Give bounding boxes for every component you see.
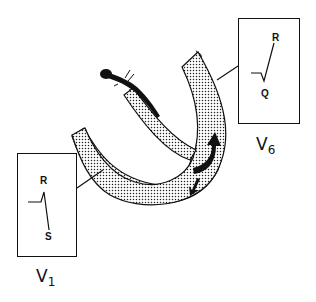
lead-v6-label: V6 <box>256 136 275 156</box>
lead-v6-subscript: 6 <box>268 143 276 157</box>
v6-qrs-waveform <box>239 19 301 125</box>
v6-q-wave-label: Q <box>261 89 269 99</box>
v6-r-wave-label: R <box>272 33 279 43</box>
lead-v1-box: R S <box>17 153 77 257</box>
lead-v1-label: V1 <box>36 268 55 288</box>
lead-v6-box: R Q <box>238 18 300 124</box>
ventricular-septum <box>124 88 196 160</box>
lead-v1-name: V <box>36 266 48 286</box>
lead-v6-name: V <box>256 134 268 154</box>
v1-r-wave-label: R <box>40 176 47 186</box>
v1-s-wave-label: S <box>45 232 52 242</box>
ecg-septal-depolarization-diagram: R Q V6 R S V1 <box>0 0 316 302</box>
v1-qrs-waveform <box>18 154 78 258</box>
lead-v1-subscript: 1 <box>48 275 56 289</box>
v6-connector-line <box>217 66 238 80</box>
